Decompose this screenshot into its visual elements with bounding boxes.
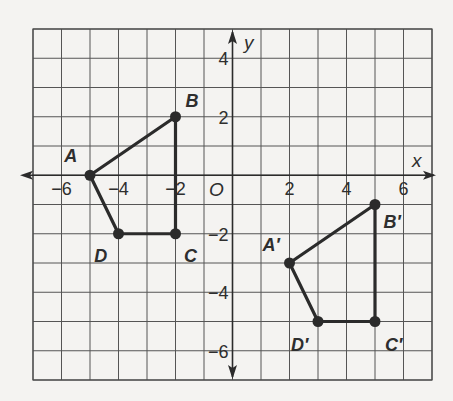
vertex-label: C <box>184 246 198 266</box>
vertex-label: A <box>63 146 77 166</box>
y-tick-label: 4 <box>218 49 228 69</box>
y-tick-label: 2 <box>218 108 228 128</box>
vertex-label: D <box>94 246 107 266</box>
x-tick-label: 6 <box>398 179 408 199</box>
vertex-label: D′ <box>291 335 309 355</box>
coordinate-plane: −6−4−224642−2−4−6 ABCD A′B′C′D′ x y O <box>0 0 453 401</box>
x-tick-label: 2 <box>284 179 294 199</box>
vertex-label: B′ <box>384 212 402 232</box>
x-axis-label: x <box>411 150 423 171</box>
vertex-point <box>370 199 381 210</box>
y-tick-label: −2 <box>208 225 229 245</box>
origin-label: O <box>209 179 224 200</box>
vertex-label: C′ <box>385 335 403 355</box>
image-quadrilateral-a-prime-b-prime-c-prime-d-prime: A′B′C′D′ <box>261 199 403 355</box>
x-tick-label: −6 <box>51 179 72 199</box>
vertex-point <box>85 170 96 181</box>
vertex-point <box>284 258 295 269</box>
vertex-point <box>113 228 124 239</box>
y-tick-label: −4 <box>208 283 229 303</box>
vertex-point <box>370 316 381 327</box>
vertex-point <box>313 316 324 327</box>
vertex-label: A′ <box>261 235 280 255</box>
x-tick-label: 4 <box>341 179 351 199</box>
vertex-point <box>170 228 181 239</box>
vertex-point <box>170 111 181 122</box>
y-tick-label: −6 <box>208 342 229 362</box>
vertex-label: B <box>185 91 198 111</box>
x-tick-label: −4 <box>108 179 129 199</box>
y-axis-label: y <box>242 32 255 53</box>
